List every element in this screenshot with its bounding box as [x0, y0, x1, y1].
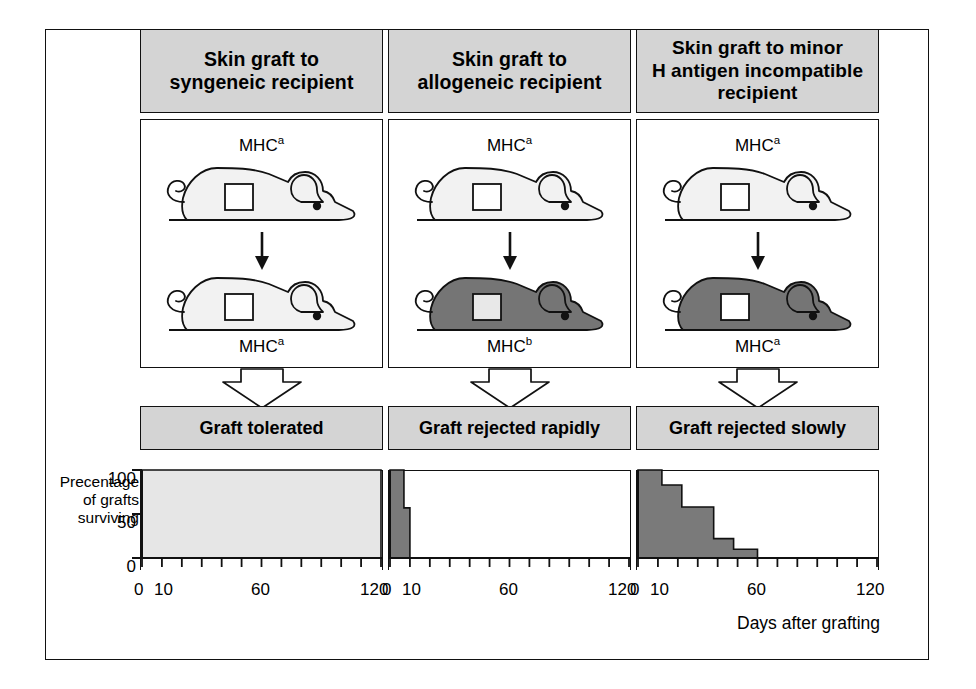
x-tick-60: 60 [747, 580, 766, 600]
x-axis-title: Days after grafting [737, 613, 880, 634]
x-tick-60: 60 [499, 580, 518, 600]
x-tick-0: 0 [630, 580, 639, 600]
x-tick-10: 10 [650, 580, 669, 600]
survival-curve-allogeneic-survival [390, 470, 629, 558]
x-tick-0: 0 [134, 580, 143, 600]
x-tick-10: 10 [402, 580, 421, 600]
survival-curve-minor-h-survival [638, 470, 877, 558]
x-tick-60: 60 [251, 580, 270, 600]
survival-curve-syngeneic-survival [142, 470, 381, 558]
figure-root: Skin graft to syngeneic recipient MHCa [0, 0, 976, 689]
survival-plots [0, 0, 976, 689]
x-tick-10: 10 [154, 580, 173, 600]
x-tick-0: 0 [382, 580, 391, 600]
x-tick-120: 120 [856, 580, 884, 600]
